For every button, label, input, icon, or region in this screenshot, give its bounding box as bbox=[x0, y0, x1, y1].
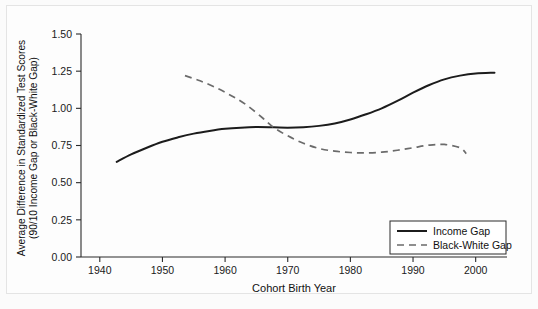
x-tick-label: 1940 bbox=[88, 264, 112, 276]
y-axis-label-line2: (90/10 Income Gap or Black-White Gap) bbox=[28, 57, 39, 239]
y-tick-label: 0.00 bbox=[52, 251, 73, 263]
legend-label-black-white-gap: Black-White Gap bbox=[433, 239, 512, 251]
x-tick-label: 1980 bbox=[339, 264, 363, 276]
x-axis-label: Cohort Birth Year bbox=[252, 282, 336, 294]
x-tick-label: 1960 bbox=[213, 264, 237, 276]
y-axis-label: Average Difference in Standardized Test … bbox=[16, 40, 39, 256]
y-tick-label: 1.00 bbox=[52, 102, 73, 114]
y-tick-label: 1.25 bbox=[52, 65, 73, 77]
line-chart: Average Difference in Standardized Test … bbox=[0, 0, 538, 309]
y-tick-label: 1.50 bbox=[52, 28, 73, 40]
y-tick-label: 0.75 bbox=[52, 139, 73, 151]
figure-container: Average Difference in Standardized Test … bbox=[0, 0, 538, 309]
y-axis-label-line1: Average Difference in Standardized Test … bbox=[16, 40, 27, 256]
x-tick-label: 2000 bbox=[464, 264, 488, 276]
chart-legend: Income Gap Black-White Gap bbox=[390, 221, 512, 254]
legend-label-income-gap: Income Gap bbox=[433, 225, 490, 237]
x-tick-label: 1970 bbox=[276, 264, 300, 276]
y-axis-ticks: 0.000.250.500.751.001.251.50 bbox=[52, 28, 81, 263]
x-tick-label: 1990 bbox=[401, 264, 425, 276]
series-group bbox=[117, 73, 495, 162]
x-tick-label: 1950 bbox=[151, 264, 175, 276]
y-tick-label: 0.25 bbox=[52, 214, 73, 226]
series-line-income-gap bbox=[117, 73, 495, 162]
x-axis-ticks: 1940195019601970198019902000 bbox=[88, 257, 487, 276]
y-tick-label: 0.50 bbox=[52, 176, 73, 188]
